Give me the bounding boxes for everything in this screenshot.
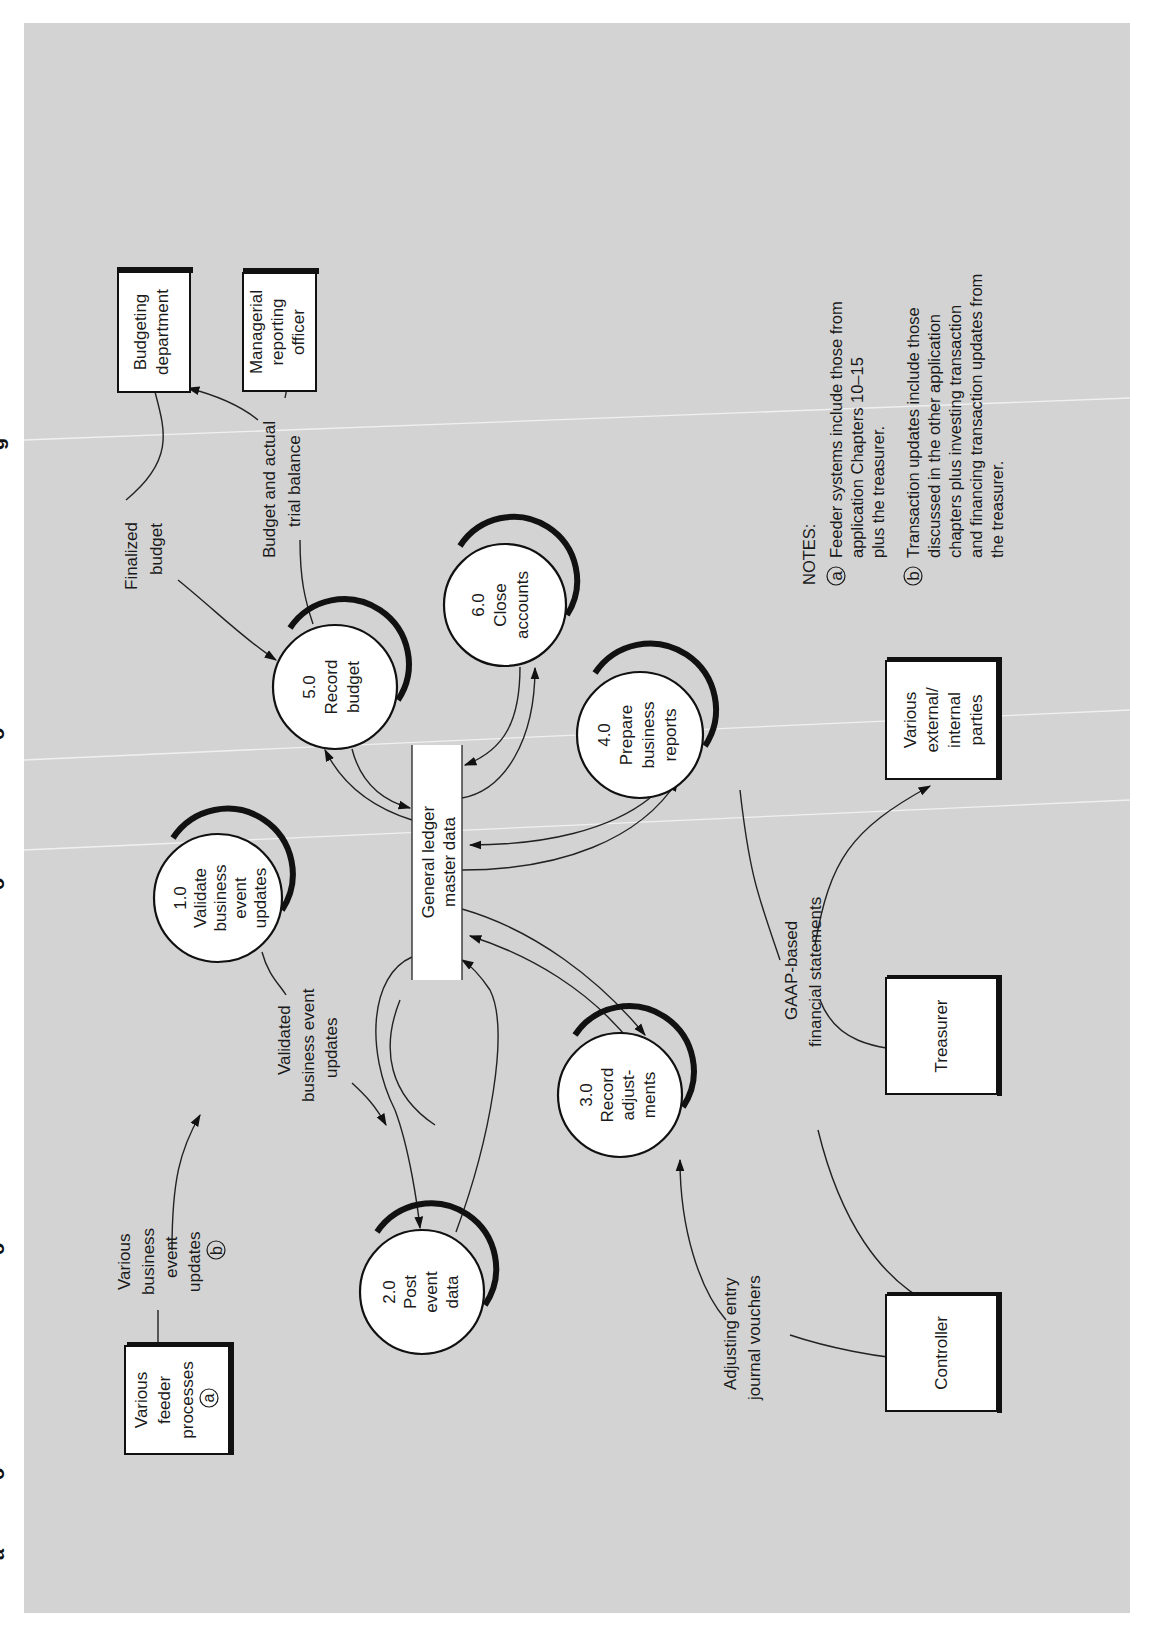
svg-text:master data: master data [440,817,459,907]
svg-text:g: g [0,438,8,450]
svg-text:adjust-: adjust- [619,1069,638,1120]
svg-text:updates: updates [251,868,270,929]
svg-text:officer: officer [289,309,308,355]
svg-text:Adjusting entry: Adjusting entry [721,1277,740,1390]
svg-text:o: o [0,1468,8,1480]
entity-various-external-internal-parties: Various external/ internal parties [886,657,1002,780]
svg-text:3.0: 3.0 [577,1083,596,1107]
svg-text:Various: Various [115,1234,134,1290]
svg-text:Record: Record [598,1068,617,1123]
svg-text:6.0: 6.0 [469,593,488,617]
svg-text:discussed in the other applica: discussed in the other application [925,314,943,558]
svg-text:reporting: reporting [268,298,287,365]
svg-text:Budget and actual: Budget and actual [260,421,279,558]
svg-text:budget: budget [344,661,363,713]
svg-text:parties: parties [967,694,986,745]
svg-text:b: b [904,571,922,580]
entity-controller: Controller [886,1292,1002,1413]
svg-text:financial statements: financial statements [806,897,825,1047]
svg-text:Treasurer: Treasurer [932,999,951,1072]
svg-text:Finalized: Finalized [122,522,141,590]
svg-text:business: business [211,864,230,931]
svg-text:the treasurer.: the treasurer. [988,461,1006,558]
svg-text:Transaction updates include th: Transaction updates include those [904,307,922,558]
svg-text:Various: Various [901,692,920,748]
svg-text:department: department [153,289,172,375]
svg-text:Managerial: Managerial [247,290,266,374]
svg-text:reports: reports [661,709,680,762]
svg-text:and financing transaction upda: and financing transaction updates from [967,274,985,558]
svg-text:GAAP-based: GAAP-based [782,921,801,1020]
svg-text:updates: updates [185,1232,204,1293]
svg-text:Post: Post [401,1275,420,1309]
entity-various-feeder-processes: Various feeder processes a [125,1342,234,1455]
entity-treasurer: Treasurer [886,975,1002,1096]
svg-text:2.0: 2.0 [380,1280,399,1304]
svg-text:ments: ments [640,1072,659,1118]
svg-text:o: o [0,878,8,890]
svg-text:5.0: 5.0 [300,675,319,699]
svg-text:chapters plus investing transa: chapters plus investing transaction [946,305,964,558]
svg-text:business event: business event [299,988,318,1102]
svg-text:plus the treasurer.: plus the treasurer. [869,426,887,558]
svg-text:o: o [0,728,8,740]
svg-text:budget: budget [147,523,166,575]
svg-text:Various: Various [132,1372,151,1428]
data-store-general-ledger: General ledger master data [412,745,462,980]
dfd-canvas: g o o o o a [0,0,1157,1652]
svg-text:event: event [422,1271,441,1313]
svg-text:Budgeting: Budgeting [131,294,150,371]
svg-text:General ledger: General ledger [419,805,438,918]
svg-text:1.0: 1.0 [171,886,190,910]
svg-text:Close: Close [491,583,510,626]
svg-text:a: a [827,571,845,581]
entity-budgeting-department: Budgeting department [117,267,193,392]
svg-text:Validated: Validated [275,1005,294,1075]
svg-text:Feeder systems include those f: Feeder systems include those from [827,301,845,558]
svg-text:Controller: Controller [932,1316,951,1390]
svg-text:feeder: feeder [155,1376,174,1425]
svg-text:internal: internal [945,692,964,748]
svg-text:business: business [639,701,658,768]
svg-text:Record: Record [322,660,341,715]
svg-text:external/: external/ [923,687,942,752]
entity-managerial-reporting-officer: Managerial reporting officer [243,268,319,391]
svg-text:a: a [0,1548,8,1560]
svg-text:data: data [443,1275,462,1309]
svg-text:application Chapters 10–15: application Chapters 10–15 [848,357,866,558]
svg-text:event: event [231,877,250,919]
svg-text:journal vouchers: journal vouchers [745,1275,764,1401]
svg-text:o: o [0,1243,8,1255]
notes-title: NOTES: [800,524,818,585]
svg-text:Validate: Validate [191,868,210,928]
svg-text:Prepare: Prepare [617,705,636,765]
svg-text:updates: updates [322,1018,341,1079]
svg-text:event: event [162,1236,181,1278]
svg-text:accounts: accounts [513,571,532,639]
svg-text:business: business [139,1228,158,1295]
svg-text:trial balance: trial balance [285,435,304,527]
svg-text:processes: processes [178,1361,197,1438]
svg-text:4.0: 4.0 [595,723,614,747]
edge-caption-fragments: g o o o o a [0,438,8,1560]
svg-text:b: b [208,1246,225,1255]
svg-text:a: a [200,1393,217,1402]
